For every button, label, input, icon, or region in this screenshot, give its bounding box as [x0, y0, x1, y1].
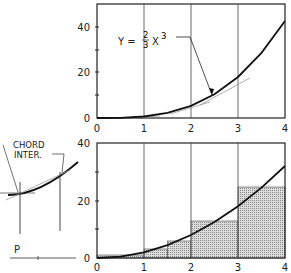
bottom-xtick-4: 4	[282, 262, 288, 273]
top-ytick-0: 0	[84, 113, 90, 124]
bottom-ytick-20: 20	[77, 196, 90, 207]
inter-label: INTER.	[14, 150, 42, 160]
figure: 40 20 0 0 1 2 3 4 Y = 2 3 X 3	[0, 0, 291, 273]
equation-leader-line	[176, 37, 212, 95]
top-ytick-40: 40	[77, 22, 90, 33]
svg-text:Y =: Y =	[117, 36, 136, 47]
bar-3-4	[238, 187, 285, 258]
svg-text:X: X	[152, 36, 159, 47]
bottom-xtick-2: 2	[188, 262, 194, 273]
bottom-xtick-1: 1	[141, 262, 147, 273]
inset-curve	[8, 162, 78, 195]
bar-2-3	[191, 221, 238, 258]
bottom-chart: 40 20 0 0 1 2 3 4	[77, 138, 288, 273]
top-xtick-4: 4	[282, 123, 288, 134]
svg-text:2: 2	[143, 30, 148, 40]
chord-label: CHORD	[13, 140, 45, 150]
top-ytick-20: 20	[77, 67, 90, 78]
top-chart: 40 20 0 0 1 2 3 4 Y = 2 3 X 3	[77, 4, 288, 134]
top-xtick-1: 1	[141, 123, 147, 134]
top-xtick-0: 0	[94, 123, 100, 134]
bottom-xtick-3: 3	[235, 262, 241, 273]
top-xtick-2: 2	[188, 123, 194, 134]
top-xtick-3: 3	[235, 123, 241, 134]
equation-label: Y = 2 3 X 3	[117, 30, 166, 50]
bottom-ytick-40: 40	[77, 138, 90, 149]
p-label: P	[14, 244, 20, 255]
svg-text:3: 3	[161, 31, 166, 41]
tangent-segments	[130, 78, 250, 118]
chord-inset: CHORD INTER. P	[0, 140, 78, 260]
bottom-ytick-0: 0	[84, 253, 90, 264]
bottom-xtick-0: 0	[94, 262, 100, 273]
svg-text:3: 3	[143, 40, 148, 50]
